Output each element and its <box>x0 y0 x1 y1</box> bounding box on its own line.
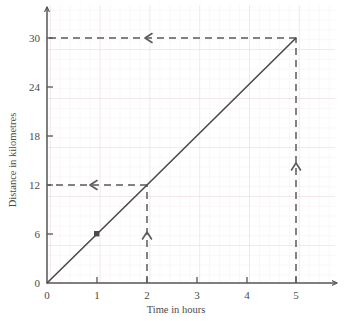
y-tick-label-12: 12 <box>29 179 40 191</box>
chart-svg: 0 1 2 3 4 5 0 6 12 18 24 30 Time in hour… <box>0 0 350 321</box>
x-axis-title: Time in hours <box>147 304 206 315</box>
y-tick-label-30: 30 <box>29 32 41 44</box>
data-point-marker-1-6 <box>94 231 99 236</box>
y-tick-label-24: 24 <box>29 81 41 93</box>
x-tick-label-1: 1 <box>94 289 100 301</box>
x-tick-label-0: 0 <box>44 289 50 301</box>
x-tick-label-3: 3 <box>194 289 200 301</box>
y-tick-label-0: 0 <box>35 277 41 289</box>
distance-time-graph-figure: 0 1 2 3 4 5 0 6 12 18 24 30 Time in hour… <box>0 0 350 321</box>
x-tick-label-2: 2 <box>144 289 150 301</box>
x-tick-label-4: 4 <box>244 289 250 301</box>
y-tick-label-6: 6 <box>35 228 41 240</box>
y-axis-title: Distance in kilometres <box>7 113 18 207</box>
x-tick-label-5: 5 <box>293 289 299 301</box>
y-tick-label-18: 18 <box>29 130 41 142</box>
